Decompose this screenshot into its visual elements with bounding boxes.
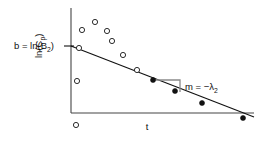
data-point-open [73, 122, 78, 127]
data-point-filled [151, 78, 156, 83]
data-point-open [74, 78, 79, 83]
data-point-filled [241, 116, 246, 121]
x-axis-label: t [146, 121, 149, 132]
data-point-filled [200, 101, 205, 106]
data-point-open [76, 45, 81, 50]
data-point-open [79, 27, 84, 32]
data-point-filled [173, 89, 178, 94]
data-point-open [109, 38, 114, 43]
data-point-open [104, 28, 109, 33]
intercept-label-close: ) [51, 40, 54, 51]
regression-line [71, 46, 254, 117]
y-axis-label-close: ) [33, 34, 44, 37]
data-point-open [120, 52, 125, 57]
data-point-open [134, 67, 139, 72]
data-point-open [92, 19, 97, 24]
slope-label: m = −λ2 [185, 81, 218, 94]
plot-canvas: b = ln(B2) ln(Cp) t m = −λ2 [0, 0, 259, 141]
slope-label-main: m = −λ [185, 81, 214, 92]
y-axis-label-main: ln(C [33, 40, 44, 58]
slope-label-subscript: 2 [214, 87, 218, 94]
semilog-decay-plot: b = ln(B2) ln(Cp) t m = −λ2 [0, 0, 259, 141]
